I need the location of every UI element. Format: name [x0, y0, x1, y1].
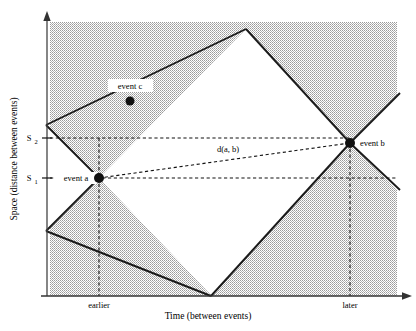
y-tick-label-s1-base: S: [27, 173, 32, 183]
y-tick-label-s2: S 2: [27, 133, 38, 145]
y-tick-label-s2-sub: 2: [34, 138, 37, 145]
diagram-canvas: Time (between events) Space (distance be…: [0, 0, 416, 331]
x-axis-arrow: [402, 292, 412, 299]
event-a-marker: [94, 173, 104, 183]
x-tick-label-later: later: [342, 300, 357, 310]
y-tick-label-s1-sub: 1: [34, 178, 37, 185]
event-a-group: event a: [55, 172, 104, 184]
event-a-label: event a: [64, 173, 89, 183]
distance-annotation: d(a, b): [205, 143, 251, 155]
x-tick-label-earlier: earlier: [88, 300, 110, 310]
x-axis-label: Time (between events): [165, 311, 252, 322]
distance-annotation-label: d(a, b): [217, 144, 239, 154]
event-c-label: event c: [118, 81, 143, 91]
event-c-marker: [126, 97, 135, 106]
y-axis-label: Space (distance between events): [9, 97, 20, 220]
event-b-label: event b: [360, 138, 385, 148]
shaded-spacelike-regions: [40, 22, 416, 296]
y-tick-label-s2-base: S: [27, 133, 32, 143]
event-b-marker: [345, 138, 355, 148]
y-axis-arrow: [43, 11, 50, 21]
y-tick-label-s1: S 1: [27, 173, 38, 185]
spacetime-diagram: Time (between events) Space (distance be…: [0, 0, 416, 331]
